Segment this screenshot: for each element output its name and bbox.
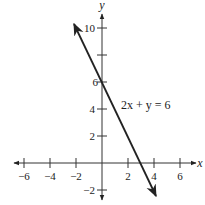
y-tick-label: −2 bbox=[83, 184, 95, 196]
x-axis-label: x bbox=[196, 156, 203, 170]
y-tick-label: 2 bbox=[90, 130, 96, 142]
equation-label: 2x + y = 6 bbox=[121, 98, 171, 112]
x-tick-label: −4 bbox=[44, 170, 56, 182]
y-axis-label: y bbox=[98, 0, 105, 12]
x-axis: −6 −4 −2 2 4 6 x bbox=[14, 156, 203, 182]
x-tick-label: −2 bbox=[70, 170, 82, 182]
y-tick-label: 4 bbox=[90, 103, 96, 115]
line-chart: −6 −4 −2 2 4 6 x 10 6 4 2 −2 y 2x + y = … bbox=[0, 0, 205, 205]
y-tick-label: 6 bbox=[93, 76, 99, 88]
x-tick-label: 2 bbox=[125, 170, 131, 182]
x-tick-label: 6 bbox=[177, 170, 183, 182]
x-tick-label: −6 bbox=[18, 170, 30, 182]
y-axis: 10 6 4 2 −2 y bbox=[83, 0, 107, 200]
x-tick-label: 4 bbox=[151, 170, 157, 182]
y-tick-label: 10 bbox=[84, 22, 96, 34]
